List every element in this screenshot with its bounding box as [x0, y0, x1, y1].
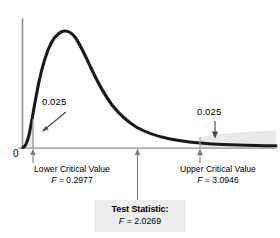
lower-tail-callout-arrow — [42, 112, 66, 132]
test-stat-number: = 2.0269 — [124, 216, 161, 226]
lower-critical-value-label: Lower Critical Value F = 0.2977 — [12, 164, 132, 186]
upper-critical-value-label: Upper Critical Value F = 3.0946 — [158, 164, 278, 186]
upper-cv-number: = 3.0946 — [203, 175, 239, 185]
test-statistic-tick — [135, 149, 141, 200]
test-statistic-callout: Test Statistic: F = 2.0269 — [94, 200, 186, 232]
upper-critical-value-value: F = 3.0946 — [158, 175, 278, 185]
test-statistic-title: Test Statistic: — [94, 204, 186, 214]
lower-critical-value-tick — [30, 149, 36, 163]
test-statistic-value: F = 2.0269 — [94, 216, 186, 226]
upper-tail-probability-label: 0.025 — [197, 107, 221, 117]
lower-tail-probability-label: 0.025 — [42, 97, 66, 107]
lower-cv-number: = 0.2977 — [57, 175, 93, 185]
upper-critical-value-title: Upper Critical Value — [158, 164, 278, 174]
density-curve — [23, 31, 276, 147]
lower-critical-value-title: Lower Critical Value — [12, 164, 132, 174]
origin-label: 0 — [13, 149, 19, 160]
lower-critical-value-value: F = 0.2977 — [12, 175, 132, 185]
upper-critical-value-tick — [197, 149, 203, 163]
f-distribution-figure: 0 0.025 0.025 Lower Critical Value F = 0… — [0, 0, 280, 238]
